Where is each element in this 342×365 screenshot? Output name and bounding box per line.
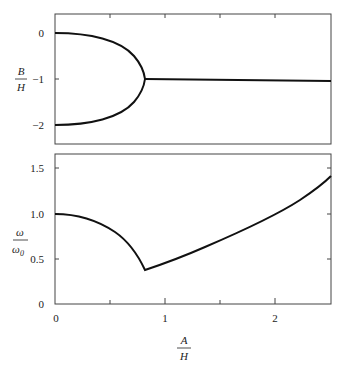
bottom-panel-frame	[55, 154, 331, 304]
x-tick-0: 0	[53, 312, 59, 324]
x-tick-2: 2	[272, 312, 278, 324]
x-tick-1: 1	[162, 312, 168, 324]
upper-branch-curve	[55, 33, 145, 79]
bottom-y-tick-1.5: 1.5	[30, 162, 44, 174]
bottom-y-tick-1.0: 1.0	[30, 208, 44, 220]
x-label-numerator: A	[180, 334, 188, 346]
frequency-curve	[55, 176, 331, 270]
lower-branch-curve	[55, 79, 145, 125]
top-y-label-numerator: B	[18, 65, 25, 77]
top-y-label-denominator: H	[16, 81, 26, 93]
bottom-y-tick-0: 0	[39, 298, 45, 310]
bottom-panel: 1.5 1.0 0.5 0 0 1 2 ω ω0 A H	[12, 154, 331, 362]
bottom-y-tick-0.5: 0.5	[30, 253, 44, 265]
top-panel: 0 −1 −2 B H	[15, 14, 331, 144]
merged-branch-curve	[145, 79, 331, 81]
top-y-tick-minus1: −1	[32, 73, 44, 85]
x-label-denominator: H	[179, 350, 189, 362]
bottom-y-label-numerator: ω	[16, 226, 24, 238]
bottom-y-label-denominator: ω0	[12, 243, 24, 258]
top-y-tick-minus2: −2	[32, 119, 44, 131]
figure: 0 −1 −2 B H 1.5 1.0 0.5 0 0 1 2	[0, 0, 342, 365]
top-y-tick-0: 0	[39, 27, 45, 39]
